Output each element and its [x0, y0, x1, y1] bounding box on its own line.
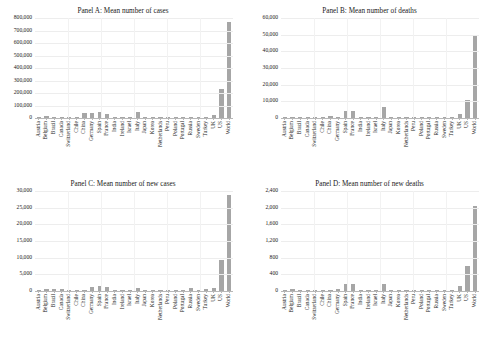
- x-label-cell: Switzerland: [65, 294, 73, 347]
- panel-d-vgridline: [314, 191, 315, 291]
- x-label-france: France: [351, 121, 356, 136]
- x-tickmark: [441, 291, 449, 293]
- x-tickmark: [334, 291, 342, 293]
- x-label-spain: Spain: [97, 121, 102, 133]
- x-tickmark: [448, 118, 456, 120]
- x-label-israel: Israel: [373, 294, 378, 306]
- x-tickmark: [111, 118, 119, 120]
- x-label-switzerland: Switzerland: [67, 121, 72, 147]
- panel-c-x-labels: AustriaBelgiumBrazilCanadaSwitzerlandChi…: [35, 294, 233, 347]
- panel-b: Panel B: Mean number of deaths 010,00020…: [246, 0, 493, 173]
- x-tickmark: [395, 118, 403, 120]
- x-tickmark: [319, 291, 327, 293]
- x-tickmark: [327, 118, 335, 120]
- x-tickmark: [296, 118, 304, 120]
- x-tickmark: [441, 118, 449, 120]
- x-tickmark: [126, 118, 134, 120]
- x-label-cell: US: [218, 294, 226, 347]
- panel-a: Panel A: Mean number of cases 0100,00020…: [0, 0, 246, 173]
- bar-world: [227, 195, 231, 291]
- panel-a-vgridline: [68, 18, 69, 118]
- x-label-india: India: [358, 121, 363, 132]
- x-tickmark: [142, 118, 150, 120]
- x-label-spain: Spain: [97, 294, 102, 306]
- x-label-russia: Russia: [434, 121, 439, 135]
- x-tickmark: [50, 291, 58, 293]
- x-label-india: India: [112, 294, 117, 305]
- x-label-korea: Korea: [396, 121, 401, 134]
- x-label-canada: Canada: [305, 294, 310, 310]
- panel-d-vgridline: [380, 191, 381, 291]
- x-label-cell: Korea: [395, 294, 403, 347]
- x-label-netherlands: Netherlands: [404, 121, 409, 147]
- x-tickmark: [296, 291, 304, 293]
- panel-a-ytick-label: 300,000: [14, 78, 32, 84]
- x-label-cell: China: [327, 294, 335, 347]
- bar-us: [219, 260, 223, 291]
- panel-d-y-axis: 04008001,2001,6002,0002,400: [246, 191, 280, 291]
- x-label-austria: Austria: [282, 294, 287, 310]
- x-tickmark: [410, 118, 418, 120]
- x-tickmark: [218, 118, 226, 120]
- x-tickmark: [327, 291, 335, 293]
- panel-d-vgridline: [413, 191, 414, 291]
- x-tickmark: [418, 291, 426, 293]
- x-label-poland: Poland: [173, 294, 178, 309]
- panel-c-ytick-label: 30,000: [17, 188, 32, 194]
- x-label-cell: Sweden: [441, 294, 449, 347]
- panel-d-ytick-label: 2,400: [265, 188, 278, 194]
- bar-france: [351, 111, 355, 118]
- x-label-cell: Canada: [58, 294, 66, 347]
- x-label-poland: Poland: [173, 121, 178, 136]
- x-label-switzerland: Switzerland: [313, 121, 318, 147]
- x-label-germany: Germany: [89, 121, 94, 141]
- x-label-belgium: Belgium: [290, 121, 295, 140]
- panel-d-x-tickmarks: [281, 291, 479, 293]
- x-label-world: World: [226, 121, 231, 134]
- x-label-italy: Italy: [135, 121, 140, 131]
- x-label-cell: Peru: [164, 294, 172, 347]
- x-tickmark: [172, 118, 180, 120]
- x-label-sweden: Sweden: [442, 121, 447, 138]
- x-label-france: France: [105, 121, 110, 136]
- panel-d-vgridline: [446, 191, 447, 291]
- panel-a-ytick-label: 0: [29, 115, 32, 121]
- panel-b-vgridline: [380, 18, 381, 118]
- panel-b-ytick-label: 30,000: [263, 65, 278, 71]
- panel-c-vgridline: [101, 191, 102, 291]
- x-label-us: US: [219, 121, 224, 128]
- x-tickmark: [88, 291, 96, 293]
- panel-c-x-tickmarks: [35, 291, 233, 293]
- x-label-netherlands: Netherlands: [404, 294, 409, 320]
- x-label-chile: Chile: [74, 294, 79, 306]
- bar-italy: [382, 284, 386, 291]
- x-tickmark: [187, 118, 195, 120]
- x-tickmark: [180, 291, 188, 293]
- x-tickmark: [149, 118, 157, 120]
- x-label-world: World: [472, 121, 477, 134]
- x-tickmark: [464, 118, 472, 120]
- x-label-uk: UK: [211, 294, 216, 302]
- x-tickmark: [58, 291, 66, 293]
- x-label-ireland: Ireland: [366, 294, 371, 309]
- x-label-russia: Russia: [434, 294, 439, 308]
- x-label-brazil: Brazil: [51, 294, 56, 307]
- x-tickmark: [418, 118, 426, 120]
- x-label-cell: Russia: [187, 294, 195, 347]
- panel-c-vgridline: [134, 191, 135, 291]
- panel-a-x-tickmarks: [35, 118, 233, 120]
- x-tickmark: [334, 118, 342, 120]
- x-label-sweden: Sweden: [196, 121, 201, 138]
- panel-b-plot-area: [281, 18, 479, 119]
- x-label-us: US: [219, 294, 224, 301]
- x-label-world: World: [472, 294, 477, 307]
- x-label-peru: Peru: [411, 294, 416, 304]
- panel-a-vgridline: [200, 18, 201, 118]
- x-tickmark: [126, 291, 134, 293]
- x-tickmark: [433, 291, 441, 293]
- panel-a-ytick-label: 500,000: [14, 53, 32, 59]
- panel-d-x-labels: AustriaBelgiumBrazilCanadaSwitzerlandChi…: [281, 294, 479, 347]
- panel-b-vgridline: [413, 18, 414, 118]
- x-tickmark: [304, 291, 312, 293]
- x-label-austria: Austria: [282, 121, 287, 137]
